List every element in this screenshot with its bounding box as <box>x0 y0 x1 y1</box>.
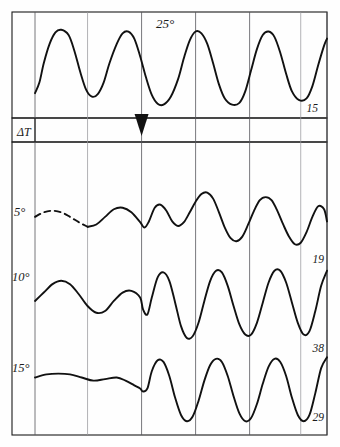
lower-panel-gridlines <box>35 142 327 435</box>
label-5deg: 5° <box>14 205 25 219</box>
label-25deg: 25° <box>156 16 174 31</box>
traces <box>35 30 327 422</box>
panel-frames <box>12 12 327 435</box>
delta-t-triangle-marker <box>135 114 149 136</box>
label-right-38: 38 <box>312 342 325 354</box>
trace-5deg <box>88 192 327 244</box>
label-right-19: 19 <box>313 253 325 265</box>
label-10deg: 10° <box>12 270 30 284</box>
band-gridlines <box>35 118 327 142</box>
label-delta-t: ΔT <box>16 125 32 139</box>
delta-t-band-frame <box>12 118 327 142</box>
figure-root: 25° 15 ΔT 5° 10° 15° 19 38 29 <box>0 0 340 447</box>
label-right-29: 29 <box>313 411 325 423</box>
lower-panel-frame <box>12 142 327 435</box>
trace-25deg <box>35 30 327 106</box>
trace-5deg-dashed-segment <box>35 211 88 227</box>
oscillation-chart: 25° 15 ΔT 5° 10° 15° 19 38 29 <box>0 0 340 447</box>
trace-15deg <box>35 357 327 421</box>
label-upper-right-15: 15 <box>307 102 319 114</box>
label-15deg: 15° <box>12 361 30 375</box>
trace-10deg <box>35 269 327 339</box>
